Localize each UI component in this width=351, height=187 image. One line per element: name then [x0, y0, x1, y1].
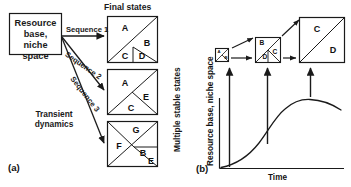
y-axis-label: Resource base, niche space	[206, 94, 215, 166]
stage-large-cell-c: C	[312, 24, 322, 34]
final-state-bottom-cell-g: G	[131, 125, 141, 135]
sequence-1-label: Sequence 1	[66, 25, 108, 34]
stage-medium-cell-c: C	[271, 48, 279, 55]
stage-small-cell-a: A	[216, 49, 222, 54]
final-state-top-cell-c: C	[120, 51, 130, 61]
stage-medium-cell-d: D	[261, 53, 269, 60]
final-state-middle-cell-c: C	[126, 103, 136, 113]
multiple-stable-states-label: Multiple stable states	[172, 67, 182, 152]
transient-dynamics-label: Transient dynamics	[24, 110, 84, 130]
stage-diagonal-arrow-2	[282, 20, 299, 36]
stage-large-cell-d: D	[328, 45, 338, 55]
final-state-middle-cell-e: E	[141, 92, 151, 102]
stage-medium-cell-b: B	[258, 39, 266, 46]
final-state-bottom-cell-f: F	[114, 141, 124, 151]
stage-small-cell-b: B	[223, 55, 229, 60]
resource-curve	[221, 99, 341, 167]
final-state-top-cell-a: A	[120, 23, 130, 33]
x-axis-label: Time	[268, 173, 287, 182]
source-box-label: Resource base, niche space	[11, 18, 60, 61]
final-state-top-cell-b: B	[142, 38, 152, 48]
final-state-top-cell-d: D	[137, 51, 147, 61]
figure-root: Resource base, niche space Final states …	[0, 0, 351, 187]
panel-a-caption: (a)	[8, 162, 20, 173]
stage-large-shape	[300, 18, 345, 63]
final-states-header: Final states	[104, 2, 151, 12]
stage-diagonal-arrow-1	[232, 38, 253, 48]
final-state-bottom-cell-e: E	[146, 156, 156, 166]
final-state-middle-cell-a: A	[120, 78, 130, 88]
panel-b-caption: (b)	[196, 163, 208, 174]
